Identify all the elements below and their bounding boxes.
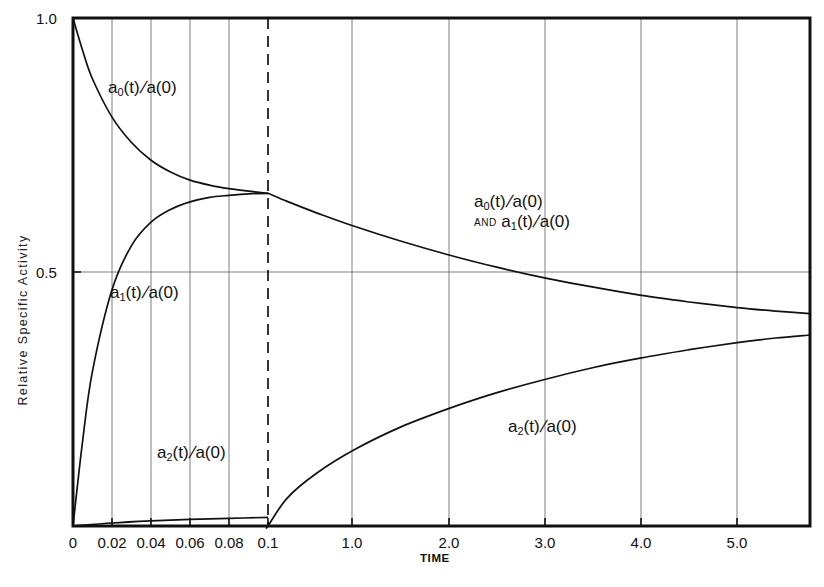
- annotation-combined-line2-base: a: [501, 212, 510, 231]
- annotation-a1-left: a1(t)/a(0): [110, 283, 179, 303]
- x-tick-label-0: 0: [69, 534, 77, 551]
- annotation-combined-line2-den: a(0): [540, 212, 570, 231]
- x-tick-label-2-0: 2.0: [439, 534, 460, 551]
- annotation-combined-line2-sub: 1: [511, 220, 517, 232]
- annotation-combined-line1-sub: 0: [483, 200, 489, 212]
- annotation-a0-a1-combined: a0(t)/a(0) AND a1(t)/a(0): [474, 192, 570, 231]
- x-tick-label-0-08: 0.08: [214, 534, 243, 551]
- y-tick-label-0-5: 0.5: [36, 264, 57, 281]
- x-tick-label-0-1: 0.1: [258, 534, 279, 551]
- curve-a0: [73, 18, 810, 314]
- x-tick-label-3-0: 3.0: [535, 534, 556, 551]
- curve-a1: [73, 193, 268, 526]
- figure-container: Relative Specific Activity 1.0 0.5 0 0.0…: [0, 0, 824, 587]
- annotation-and-word: AND: [474, 216, 497, 227]
- annotation-a2-left-den: a(0): [195, 443, 225, 462]
- annotation-a2-right: a2(t)/a(0): [508, 417, 577, 437]
- annotation-a2-left: a2(t)/a(0): [157, 443, 226, 463]
- annotation-a1-left-sub: 1: [119, 291, 125, 303]
- x-tick-label-0-02: 0.02: [97, 534, 126, 551]
- annotation-a2-left-sub: 2: [166, 451, 172, 463]
- annotation-a2-right-den: a(0): [546, 417, 576, 436]
- annotation-a0-left-den: a(0): [146, 78, 176, 97]
- y-tick-label-1-0: 1.0: [36, 10, 57, 27]
- annotation-a0-left: a0(t)/a(0): [108, 78, 177, 98]
- x-tick-label-1-0: 1.0: [342, 534, 363, 551]
- x-tick-label-0-06: 0.06: [175, 534, 204, 551]
- annotation-a1-left-den: a(0): [148, 283, 178, 302]
- annotation-a2-right-sub: 2: [517, 425, 523, 437]
- annotation-a0-left-sub: 0: [117, 86, 123, 98]
- annotation-combined-line1: a0(t)/a(0): [474, 192, 570, 212]
- annotation-combined-line2: AND a1(t)/a(0): [474, 212, 570, 232]
- x-tick-label-4-0: 4.0: [631, 534, 652, 551]
- x-tick-label-0-04: 0.04: [136, 534, 165, 551]
- x-axis-label: TIME: [420, 552, 450, 564]
- x-tick-label-5-0: 5.0: [727, 534, 748, 551]
- annotation-combined-line1-den: a(0): [512, 192, 542, 211]
